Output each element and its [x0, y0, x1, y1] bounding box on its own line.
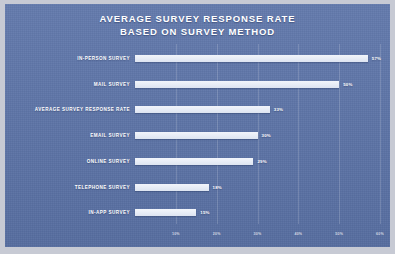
bar-value-label: 50%	[343, 82, 352, 87]
bar-row: TELEPHONE SURVEY18%	[5, 174, 390, 201]
bar	[135, 55, 368, 62]
chart-title-line-2: BASED ON SURVEY METHOD	[5, 26, 390, 39]
bar-row: EMAIL SURVEY30%	[5, 122, 390, 149]
category-label: EMAIL SURVEY	[5, 133, 130, 138]
bar-row: IN-APP SURVEY15%	[5, 199, 390, 226]
bar-value-label: 29%	[257, 159, 266, 164]
x-axis-tick-label: 30%	[254, 232, 262, 236]
bar-value-label: 18%	[213, 185, 222, 190]
chart-panel: AVERAGE SURVEY RESPONSE RATE BASED ON SU…	[5, 4, 390, 247]
x-axis-tick-label: 60%	[376, 232, 384, 236]
bar-row: MAIL SURVEY50%	[5, 71, 390, 98]
bar-row: AVERAGE SURVEY RESPONSE RATE33%	[5, 96, 390, 123]
category-label: ONLINE SURVEY	[5, 159, 130, 164]
chart-image-frame: AVERAGE SURVEY RESPONSE RATE BASED ON SU…	[0, 0, 395, 254]
bar-value-label: 30%	[262, 133, 271, 138]
bar-track: 50%	[135, 71, 390, 98]
category-label: MAIL SURVEY	[5, 82, 130, 87]
category-label: IN-APP SURVEY	[5, 210, 130, 215]
bar-row: ONLINE SURVEY29%	[5, 148, 390, 175]
chart-title: AVERAGE SURVEY RESPONSE RATE BASED ON SU…	[5, 13, 390, 38]
bar	[135, 132, 258, 139]
bar	[135, 209, 196, 216]
category-label: AVERAGE SURVEY RESPONSE RATE	[5, 107, 130, 112]
x-axis-tick-label: 20%	[213, 232, 221, 236]
x-axis-tick-label: 40%	[294, 232, 302, 236]
category-label: IN-PERSON SURVEY	[5, 56, 130, 61]
plot-area: 10%20%30%40%50%60%IN-PERSON SURVEY57%MAI…	[5, 44, 390, 236]
bar-value-label: 15%	[200, 210, 209, 215]
bar	[135, 184, 209, 191]
bar-track: 33%	[135, 96, 390, 123]
bar	[135, 106, 270, 113]
bar-track: 29%	[135, 148, 390, 175]
bar-value-label: 57%	[372, 56, 381, 61]
bar-row: IN-PERSON SURVEY57%	[5, 45, 390, 72]
bar-track: 57%	[135, 45, 390, 72]
bar-track: 18%	[135, 174, 390, 201]
x-axis-tick-label: 50%	[335, 232, 343, 236]
bar-track: 30%	[135, 122, 390, 149]
bar-value-label: 33%	[274, 107, 283, 112]
x-axis-tick-label: 10%	[172, 232, 180, 236]
chart-title-line-1: AVERAGE SURVEY RESPONSE RATE	[5, 13, 390, 26]
category-label: TELEPHONE SURVEY	[5, 185, 130, 190]
bar	[135, 158, 253, 165]
bar	[135, 81, 339, 88]
bar-track: 15%	[135, 199, 390, 226]
